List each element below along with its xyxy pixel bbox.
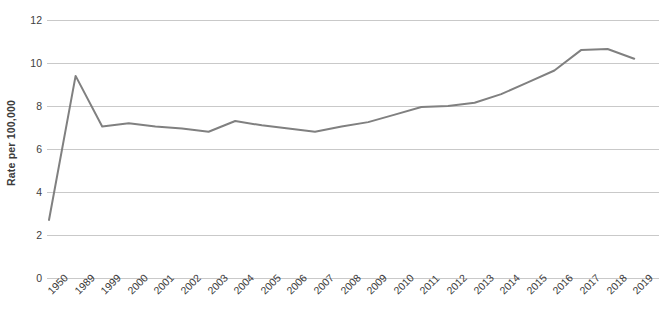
series-line [47, 0, 659, 286]
y-tick-label: 4 [36, 186, 42, 198]
line-chart: Rate per 100,000 024681012 1950198919992… [0, 0, 663, 330]
x-axis-tick-labels: 1950198919992000200120022003200420052006… [47, 286, 659, 330]
y-axis-tick-labels: 024681012 [22, 0, 46, 286]
y-axis-title-label: Rate per 100,000 [5, 100, 17, 186]
y-tick-label: 10 [30, 57, 42, 69]
y-tick-label: 8 [36, 100, 42, 112]
series-polyline [49, 49, 634, 220]
y-tick-label: 2 [36, 229, 42, 241]
y-tick-label: 12 [30, 14, 42, 26]
y-axis-title: Rate per 100,000 [0, 0, 22, 286]
plot-area [47, 0, 659, 286]
y-tick-label: 6 [36, 143, 42, 155]
y-tick-label: 0 [36, 272, 42, 284]
